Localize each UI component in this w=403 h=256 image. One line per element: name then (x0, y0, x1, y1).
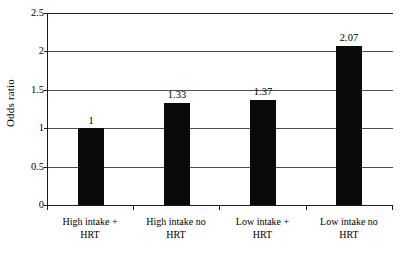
y-tick-label: 2.5 (18, 8, 44, 18)
plot-area: 1 1.33 1.37 2.07 (47, 13, 393, 205)
y-tick-label: 1 (18, 123, 44, 133)
x-tickmark (219, 205, 220, 210)
x-category-line2: HRT (219, 229, 306, 242)
x-axis-line (47, 205, 393, 206)
bar-value-label: 1 (78, 115, 104, 126)
y-tickmark (44, 167, 48, 168)
x-category-line1: High intake no (133, 216, 219, 229)
x-tickmark (392, 205, 393, 210)
x-category-label-low-intake-plus-hrt: Low intake + HRT (219, 216, 306, 241)
bar-high-intake-no-hrt[interactable] (164, 103, 190, 205)
y-tick-label: 2 (18, 46, 44, 56)
gridline-2.5 (48, 13, 393, 14)
x-category-line1: High intake + (47, 216, 133, 229)
x-category-label-low-intake-no-hrt: Low intake no HRT (306, 216, 392, 241)
y-tickmark (44, 51, 48, 52)
y-tickmark (44, 128, 48, 129)
bar-low-intake-plus-hrt[interactable] (250, 100, 276, 205)
x-category-line2: HRT (306, 229, 392, 242)
x-category-label-high-intake-no-hrt: High intake no HRT (133, 216, 219, 241)
x-category-line1: Low intake no (306, 216, 392, 229)
bar-low-intake-no-hrt[interactable] (336, 46, 362, 205)
x-tickmark (306, 205, 307, 210)
y-tickmark (44, 13, 48, 14)
x-category-line2: HRT (47, 229, 133, 242)
bar-chart-figure: Odds ratio 2.5 2 1.5 1 0.5 0 1 1.33 1.37… (0, 0, 403, 256)
bar-value-label: 1.33 (164, 89, 190, 100)
x-category-line1: Low intake + (219, 216, 306, 229)
bar-value-label: 1.37 (250, 86, 276, 97)
y-tickmark (44, 90, 48, 91)
x-tickmark (133, 205, 134, 210)
y-axis-title-text: Odds ratio (4, 78, 16, 126)
x-category-line2: HRT (133, 229, 219, 242)
y-tick-label: 1.5 (18, 85, 44, 95)
y-tick-label: 0.5 (18, 162, 44, 172)
bar-value-label: 2.07 (336, 32, 362, 43)
y-tick-label: 0 (18, 200, 44, 210)
y-axis-tick-labels: 2.5 2 1.5 1 0.5 0 (16, 0, 44, 256)
x-category-label-high-intake-plus-hrt: High intake + HRT (47, 216, 133, 241)
x-tickmark (47, 205, 48, 210)
bar-high-intake-plus-hrt[interactable] (78, 128, 104, 205)
